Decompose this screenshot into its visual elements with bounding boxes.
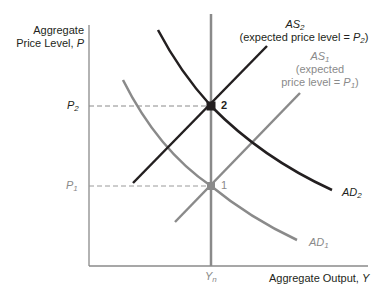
x-axis-label-var: Y (362, 272, 369, 284)
as2-label: AS2 (expected price level = P2) (220, 18, 388, 44)
as2-desc-text: (expected price level = (240, 31, 353, 43)
as1-desc-close: ) (355, 76, 359, 88)
as1-curve (175, 93, 300, 222)
y-axis-label-line2: Price Level, P (10, 37, 84, 50)
as2-desc-close: ) (365, 31, 369, 43)
ad1-sub: 1 (324, 241, 328, 250)
as2-var: AS (285, 18, 300, 30)
as1-label: AS1 (expected price level = P1) (268, 50, 372, 89)
p1-sub: 1 (73, 184, 77, 193)
point-1-label: 1 (221, 179, 227, 192)
as2-description: (expected price level = P2) (220, 31, 388, 44)
as1-desc-line1: (expected (268, 63, 372, 76)
equilibrium-point-2 (207, 102, 216, 111)
as1-var: AS (310, 50, 325, 62)
as1-desc-line2: price level = P1) (268, 76, 372, 89)
y-axis-label-var: P (77, 37, 84, 49)
equilibrium-point-1 (207, 182, 215, 190)
y-axis-label-line1: Aggregate (10, 24, 84, 37)
y-axis-label-text: Price Level, (16, 37, 77, 49)
as1-name: AS1 (268, 50, 372, 63)
yn-tick-label: Yn (205, 270, 217, 283)
ad1-label: AD1 (309, 236, 329, 249)
yn-sub: n (212, 275, 216, 284)
p2-sub: 2 (74, 104, 78, 113)
ad2-var: AD (342, 186, 357, 198)
ad1-var: AD (309, 236, 324, 248)
y-axis-label: Aggregate Price Level, P (10, 24, 84, 50)
as1-desc-text: price level = (281, 76, 343, 88)
x-axis-label-text: Aggregate Output, (269, 272, 362, 284)
as1-desc-var: P (343, 76, 350, 88)
p2-tick-label: P2 (67, 99, 79, 112)
ad2-label: AD2 (342, 186, 362, 199)
as2-name: AS2 (220, 18, 388, 31)
ad2-sub: 2 (357, 191, 361, 200)
x-axis-label: Aggregate Output, Y (269, 272, 369, 285)
point-2-label: 2 (221, 99, 227, 112)
as2-curve (133, 46, 267, 183)
p1-tick-label: P1 (66, 179, 78, 192)
